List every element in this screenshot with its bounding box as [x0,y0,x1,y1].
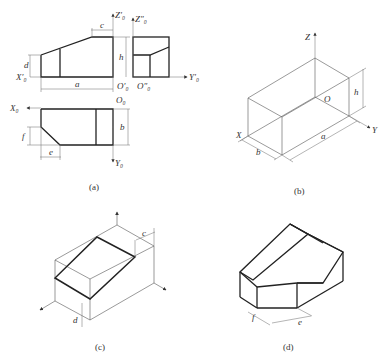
dim-f-label: f [22,131,26,141]
dim-c-label: c [100,20,104,30]
dim-h-label: h [119,52,124,62]
caption-b: (b) [294,186,305,196]
panel-c-cut-plane: c d (c) [40,212,166,352]
label-y: Y [372,125,378,135]
dim-b-label-b: b [256,147,261,157]
label-x: X [235,130,242,140]
caption-d: (d) [283,342,294,352]
panel-d-final-isometric: f e (d) [240,224,343,352]
panel-b-bounding-box: Z X Y O h a b (b) [235,32,378,196]
label-y0: Y₀ [115,158,123,168]
dim-d-label: d [24,60,29,70]
label-z0-prime: Z′₀ [115,10,125,20]
label-x0-prime: X′₀ [15,72,27,82]
label-z: Z [305,32,311,42]
label-x0: X₀ [9,103,19,113]
label-o0-prime: O′₀ [117,81,129,91]
dim-e-label-d: e [298,317,302,327]
dim-a-label-b: a [321,131,326,141]
dim-f-label-d: f [252,312,256,322]
caption-a: (a) [89,182,99,192]
top-view [27,108,130,162]
dim-b-label: b [120,122,125,132]
dim-d-label-c: d [73,315,78,325]
label-o0-dprime: O″₀ [137,81,150,91]
figure-canvas: Z′₀ Z″₀ X′₀ Y′₀ O′₀ O″₀ X₀ O₀ Y₀ c d h a… [0,0,388,364]
caption-c: (c) [95,342,105,352]
label-y0-prime: Y′₀ [189,72,199,82]
label-z0-dprime: Z″₀ [135,14,147,24]
side-view [133,18,187,77]
dim-e-label: e [49,147,53,157]
label-o: O [324,94,331,104]
dim-a-label: a [75,79,80,89]
dim-c-label-c: c [142,228,146,238]
panel-a-three-view: Z′₀ Z″₀ X′₀ Y′₀ O′₀ O″₀ X₀ O₀ Y₀ c d h a… [9,10,199,192]
label-o0: O₀ [116,95,126,105]
dim-h-label-b: h [354,87,359,97]
